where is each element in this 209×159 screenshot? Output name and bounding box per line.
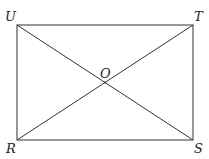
label-r: R	[5, 141, 16, 156]
label-s: S	[194, 141, 203, 156]
label-t: T	[194, 9, 204, 24]
label-o: O	[100, 66, 111, 81]
rectangle-diagram: U T O R S	[0, 0, 209, 159]
point-o	[104, 82, 106, 84]
label-u: U	[5, 9, 17, 24]
